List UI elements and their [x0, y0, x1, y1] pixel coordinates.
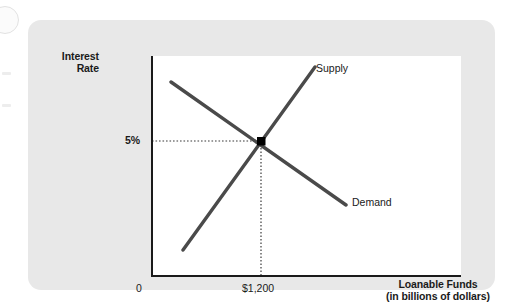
y-axis-title-line-1: Interest [62, 50, 99, 62]
supply-curve [183, 67, 315, 250]
y-axis-title-line-2: Rate [62, 62, 99, 74]
equilibrium-point-marker [257, 137, 266, 146]
x-axis-title: Loanable Funds (in billions of dollars) [358, 278, 514, 303]
figure-panel: Interest Rate 5% Supply Demand 0 $1,200 … [28, 20, 495, 290]
page-margin-mark [2, 72, 11, 75]
chart-plot-area [152, 56, 461, 276]
demand-curve-label: Demand [352, 196, 392, 208]
x-axis-line [151, 275, 461, 277]
x-axis-tick-label-equilibrium: $1,200 [242, 282, 274, 294]
y-axis-tick-label-5-percent: 5% [125, 134, 140, 146]
x-axis-title-line-1: Loanable Funds [358, 278, 514, 290]
y-axis-line [151, 56, 153, 277]
x-axis-tick-label-origin: 0 [136, 282, 142, 294]
page-margin-circle-icon [0, 6, 19, 34]
x-axis-title-line-2: (in billions of dollars) [358, 290, 514, 302]
page-margin-mark [2, 104, 11, 107]
supply-curve-label: Supply [316, 62, 348, 74]
y-axis-title: Interest Rate [62, 50, 99, 75]
loanable-funds-chart-svg [152, 56, 461, 276]
